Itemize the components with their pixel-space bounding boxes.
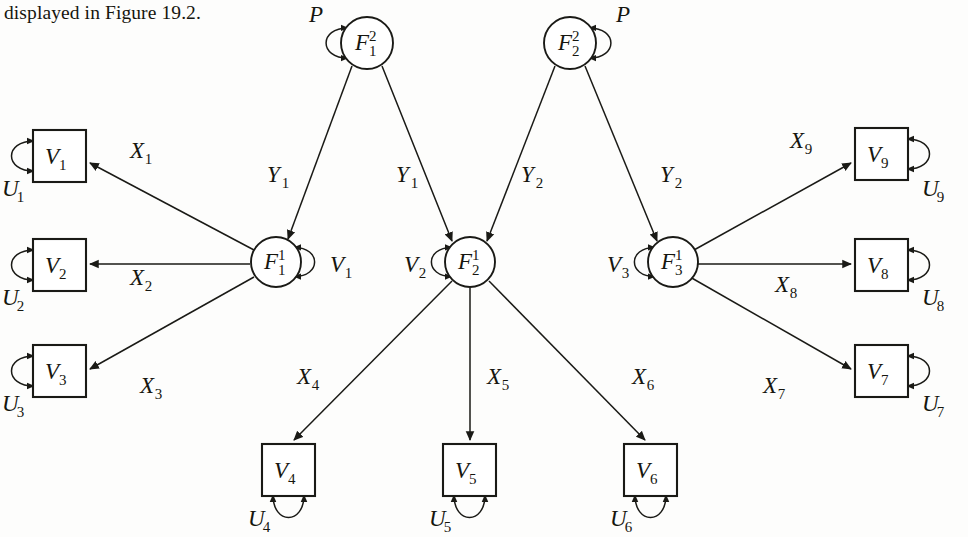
self-loop-V5: [454, 495, 485, 518]
edge-label-F2_2-to-F2_1-base: Y: [521, 162, 536, 187]
edge-label-F2_1-to-V5-subscript: 5: [502, 377, 510, 393]
self-loop-label-V9: U9: [922, 176, 944, 205]
edge-label-F3_1-to-V9-base: X: [789, 128, 805, 153]
observed-node-V7: V7: [855, 345, 908, 397]
factor-node-F1_2: F21: [341, 17, 393, 69]
factor-label-F2_2-base: F: [557, 30, 573, 55]
edge-label-F1_2-to-F1_1: Y1: [267, 162, 289, 191]
self-loop-V4: [273, 495, 304, 518]
edge-label-F1_1-to-V3-subscript: 3: [155, 386, 163, 402]
factor-label-F1_2: F21: [354, 28, 377, 59]
observed-label-V9-subscript: 9: [881, 155, 889, 171]
self-loop-label-F3_1-subscript: 3: [622, 265, 630, 281]
edge-F1_2-to-F1_1: [288, 66, 352, 239]
factor-label-F2_1-subscript: 2: [472, 262, 480, 278]
edge-label-F2_1-to-V6-subscript: 6: [647, 377, 655, 393]
self-loop-label-V1-subscript: 1: [17, 189, 25, 205]
edge-label-F1_2-to-F2_1-subscript: 1: [411, 175, 419, 191]
observed-node-V3: V3: [33, 345, 86, 397]
self-loop-V2: [12, 250, 35, 280]
edge-label-F1_1-to-V3: X3: [139, 373, 162, 402]
self-loop-label-F2_2-base: P: [615, 2, 630, 27]
edge-F2_2-to-F3_1: [585, 66, 657, 241]
edge-label-F3_1-to-V8: X8: [774, 272, 797, 301]
observed-node-V4: V4: [262, 444, 315, 496]
factor-label-F2_1-base: F: [457, 249, 473, 274]
edge-label-F3_1-to-V7-base: X: [762, 373, 778, 398]
self-loop-label-V3: U3: [2, 391, 24, 420]
edge-label-F1_2-to-F1_1-subscript: 1: [282, 175, 290, 191]
observed-label-V4-subscript: 4: [288, 471, 296, 487]
factor-label-F2_1-superscript: 1: [472, 247, 480, 263]
factor-node-F2_2: F22: [544, 17, 596, 69]
factor-label-F1_1-superscript: 1: [278, 247, 286, 263]
edge-F1_1-to-V1: [90, 163, 254, 250]
edge-F3_1-to-V7: [690, 277, 851, 369]
factor-node-F1_1: F11: [251, 237, 301, 287]
factor-label-F2_2-subscript: 2: [572, 43, 580, 59]
self-loop-label-F1_2-base: P: [308, 2, 323, 27]
edge-label-F2_2-to-F2_1: Y2: [521, 162, 543, 191]
factor-node-F2_1: F12: [445, 237, 495, 287]
edge-F1_1-to-V3: [90, 277, 254, 369]
path-diagram: F21F22F11F12F13V1V2V3V4V5V6V7V8V9 Y1Y1Y2…: [0, 0, 968, 537]
factor-label-F1_1-base: F: [263, 249, 279, 274]
self-loop-label-V8-subscript: 8: [937, 298, 945, 314]
figure-page: displayed in Figure 19.2. F21F22F11F12F1…: [0, 0, 968, 537]
edge-F1_2-to-F2_1: [382, 66, 452, 241]
edge-F2_1-to-V6: [489, 281, 645, 440]
self-loop-V6: [635, 495, 666, 518]
observed-label-V1-subscript: 1: [59, 157, 67, 173]
factor-node-F3_1: F13: [648, 237, 698, 287]
edge-label-F2_1-to-V4: X4: [296, 364, 320, 393]
edge-label-F2_2-to-F2_1-subscript: 2: [536, 175, 544, 191]
edge-F3_1-to-V9: [694, 163, 851, 250]
self-loop-label-F2_2: P: [615, 2, 630, 27]
edge-label-F2_1-to-V5-base: X: [486, 364, 502, 389]
self-loop-V1: [12, 141, 35, 171]
self-loop-label-F3_1: V3: [607, 252, 629, 281]
observed-label-V2-subscript: 2: [59, 266, 67, 282]
factor-label-F1_1: F11: [263, 247, 286, 278]
factor-label-F1_2-subscript: 1: [369, 43, 377, 59]
self-loop-label-F2_1-subscript: 2: [419, 265, 427, 281]
factor-label-F1_2-base: F: [354, 30, 370, 55]
self-loop-label-V1: U1: [2, 176, 24, 205]
edge-label-F1_1-to-V1-base: X: [129, 138, 145, 163]
observed-node-V9: V9: [855, 128, 908, 180]
edge-F2_2-to-F2_1: [487, 66, 555, 241]
edge-label-F1_1-to-V1: X1: [129, 138, 152, 167]
edge-label-F1_1-to-V1-subscript: 1: [145, 151, 153, 167]
self-loop-label-V4-subscript: 4: [263, 519, 271, 535]
self-loop-V9: [907, 139, 930, 169]
factor-label-F1_2-superscript: 2: [369, 28, 377, 44]
observed-node-V2: V2: [33, 239, 86, 291]
self-loop-V3: [12, 356, 35, 386]
edge-label-F3_1-to-V9-subscript: 9: [805, 141, 813, 157]
self-loop-V8: [907, 250, 930, 280]
edge-label-F2_2-to-F3_1: Y2: [660, 162, 682, 191]
observed-label-V6-subscript: 6: [650, 471, 658, 487]
self-loop-label-V9-subscript: 9: [937, 189, 945, 205]
factor-label-F3_1-base: F: [660, 249, 676, 274]
self-loop-label-V3-subscript: 3: [17, 404, 25, 420]
edge-label-F2_1-to-V5: X5: [486, 364, 509, 393]
self-loop-label-V7: U7: [922, 391, 945, 420]
self-loop-label-F2_1: V2: [404, 252, 426, 281]
observed-label-V3-subscript: 3: [59, 372, 67, 388]
factor-label-F2_1: F12: [457, 247, 480, 278]
self-loop-label-F1_2: P: [308, 2, 323, 27]
factor-label-F1_1-subscript: 1: [278, 262, 286, 278]
factor-label-F3_1: F13: [660, 247, 683, 278]
observed-node-V1: V1: [33, 130, 86, 182]
edge-label-F2_1-to-V4-base: X: [296, 364, 312, 389]
observed-label-V8-subscript: 8: [881, 266, 889, 282]
self-loop-label-V2-subscript: 2: [17, 298, 25, 314]
factor-label-F2_2: F22: [557, 28, 580, 59]
edge-label-F2_2-to-F3_1-base: Y: [660, 162, 675, 187]
self-loop-label-F1_1-subscript: 1: [345, 265, 353, 281]
edge-label-F2_1-to-V6: X6: [631, 364, 655, 393]
observed-label-V5-subscript: 5: [469, 471, 477, 487]
observed-node-V6: V6: [624, 444, 677, 496]
edge-label-F1_1-to-V2-base: X: [129, 265, 145, 290]
